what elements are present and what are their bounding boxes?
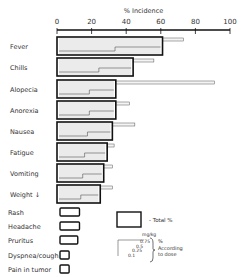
category-label: Dyspnea/cough <box>8 252 59 260</box>
category-label: Rash <box>8 209 24 217</box>
incidence-chart: % Incidence020406080100FeverChillsAlopec… <box>0 0 242 277</box>
x-tick-label: 40 <box>122 18 131 26</box>
x-tick-label: 0 <box>55 18 59 26</box>
category-label: Weight ↓ <box>10 191 40 199</box>
category-label: Vomiting <box>10 170 39 178</box>
dose-extension-bar <box>116 102 130 105</box>
total-bar <box>60 222 79 230</box>
category-label: Fever <box>10 43 28 51</box>
category-label: Headache <box>8 223 41 231</box>
bar-fill <box>59 59 131 75</box>
legend-dose-unit: mg/kg <box>142 232 156 237</box>
dose-extension-bar <box>112 123 134 126</box>
category-label: Nausea <box>10 128 34 136</box>
total-bar <box>60 236 78 244</box>
x-tick-label: 100 <box>223 18 236 26</box>
legend-brace <box>150 238 155 262</box>
chart-canvas: % Incidence020406080100FeverChillsAlopec… <box>0 0 242 277</box>
category-label: Anorexia <box>10 107 39 115</box>
x-tick-label: 60 <box>156 18 165 26</box>
dose-extension-bar <box>163 38 184 41</box>
bar-fill <box>59 144 105 160</box>
legend-dose-label: to dose <box>158 251 177 257</box>
total-bar <box>60 251 69 259</box>
category-label: Chills <box>10 64 28 72</box>
legend-total-swatch <box>117 212 141 227</box>
bar-fill <box>59 165 102 181</box>
category-label: Pruritus <box>8 237 34 245</box>
dose-extension-bar <box>100 186 112 189</box>
legend-total-label: - Total % <box>149 217 173 223</box>
bar-fill <box>59 123 110 139</box>
bar-fill <box>59 186 98 202</box>
x-tick-label: 80 <box>191 18 200 26</box>
legend-dose-level: 0.1 <box>128 253 135 258</box>
category-label: Pain in tumor <box>8 266 52 274</box>
x-axis-title: % Incidence <box>124 7 163 15</box>
bar-fill <box>59 38 161 54</box>
bar-fill <box>59 81 114 97</box>
bar-fill <box>59 102 114 118</box>
legend-dose-label: % <box>158 238 163 244</box>
total-bar <box>60 208 79 216</box>
total-bar <box>60 265 69 273</box>
dose-extension-bar <box>116 81 215 84</box>
x-tick-label: 20 <box>87 18 96 26</box>
dose-extension-bar <box>107 144 114 147</box>
category-label: Fatigue <box>10 149 34 157</box>
dose-extension-bar <box>133 59 154 62</box>
dose-extension-bar <box>104 165 113 168</box>
category-label: Alopecia <box>10 86 38 94</box>
